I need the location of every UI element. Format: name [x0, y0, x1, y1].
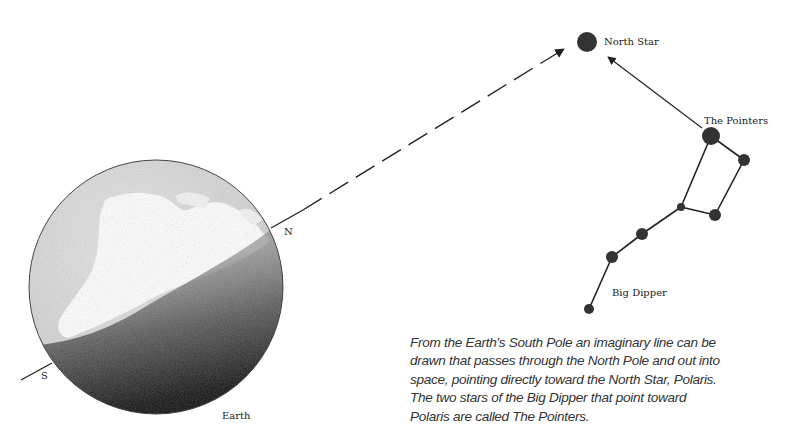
caption-text: From the Earth's South Pole an imaginary…	[410, 334, 796, 426]
dipper-star	[606, 251, 618, 263]
earth-globe	[20, 150, 300, 430]
caption-line: From the Earth's South Pole an imaginary…	[410, 334, 796, 352]
pointer-star-bottom	[738, 154, 750, 166]
north-star-label: North Star	[604, 36, 659, 47]
pointer-star-top	[702, 127, 720, 145]
caption-line: Polaris are called The Pointers.	[410, 408, 796, 426]
dipper-star	[636, 228, 648, 240]
dipper-star	[584, 304, 594, 314]
big-dipper-stars	[584, 127, 750, 314]
pointers-label: The Pointers	[704, 115, 768, 126]
caption-line: drawn that passes through the North Pole…	[410, 352, 796, 370]
dipper-star	[677, 203, 685, 211]
south-pole-label: S	[41, 370, 48, 381]
north-star-dot	[577, 32, 597, 52]
earth-label: Earth	[222, 410, 251, 421]
pointers-arrow	[608, 57, 702, 128]
axis-projection-dashed-line	[303, 49, 564, 210]
north-pole-label: N	[284, 226, 293, 237]
caption-line: The two stars of the Big Dipper that poi…	[410, 389, 796, 407]
big-dipper-label: Big Dipper	[612, 287, 667, 298]
big-dipper-lines	[589, 136, 744, 309]
dipper-star	[709, 209, 721, 221]
caption-line: space, pointing directly toward the Nort…	[410, 371, 796, 389]
